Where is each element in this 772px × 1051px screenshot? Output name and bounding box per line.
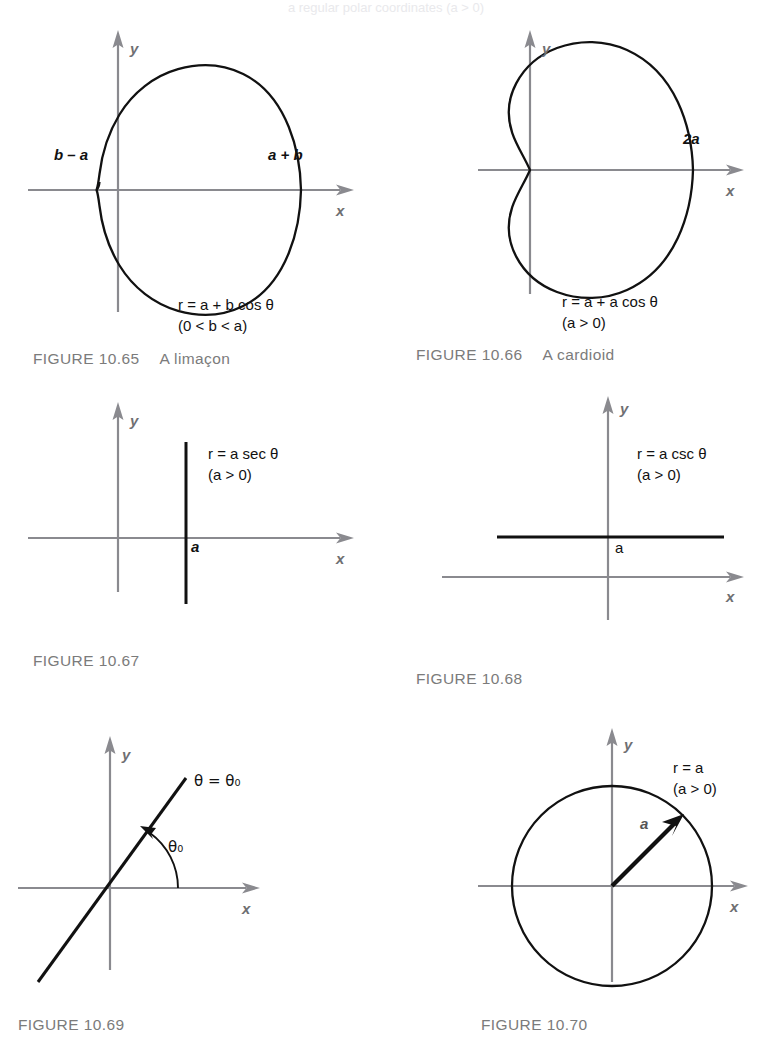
equation-line-2: (a > 0)	[637, 465, 707, 486]
angle-arc-label: θ₀	[168, 838, 183, 856]
figure-10-65-caption: FIGURE 10.65A limaçon	[33, 350, 230, 368]
y-axis-label: y	[122, 746, 130, 763]
figure-10-68-equation: r = a csc θ (a > 0)	[637, 444, 707, 485]
x-axis-label: x	[730, 898, 738, 915]
equation-line-1: r = a + a cos θ	[562, 292, 658, 313]
figure-10-67: y x a	[18, 392, 388, 612]
caption-number: FIGURE 10.67	[33, 652, 139, 669]
equation-line-1: r = a	[673, 758, 717, 779]
radius-vector-label: a	[640, 815, 648, 832]
equation-line-1: r = a sec θ	[208, 444, 278, 465]
x-axis-label: x	[336, 202, 344, 219]
equation-line-1: r = a csc θ	[637, 444, 707, 465]
figure-10-68: y x a	[400, 392, 770, 632]
figure-10-66-equation: r = a + a cos θ (a > 0)	[562, 292, 658, 333]
figure-page: a regular polar coordinates (a > 0) y x …	[0, 0, 772, 1051]
caption-number: FIGURE 10.68	[416, 670, 522, 687]
theta-line	[38, 778, 186, 982]
caption-number: FIGURE 10.69	[18, 1016, 124, 1033]
y-axis-label: y	[620, 400, 628, 417]
x-axis-label: x	[242, 900, 250, 917]
figure-10-66: y x 2a	[400, 22, 770, 322]
y-axis-label: y	[542, 40, 550, 57]
y-axis-label: y	[130, 412, 138, 429]
equation-line-2: (0 < b < a)	[178, 316, 274, 337]
line-equation-label: θ = θ₀	[194, 772, 240, 790]
figure-10-70-caption: FIGURE 10.70	[481, 1016, 587, 1034]
right-intercept-label: a + b	[268, 146, 303, 163]
figure-10-69-graphic	[18, 700, 388, 1000]
x-axis-label: x	[726, 588, 734, 605]
y-axis-label: y	[130, 40, 138, 57]
y-intercept-label: a	[615, 539, 623, 556]
figure-10-68-caption: FIGURE 10.68	[416, 670, 522, 688]
figure-10-67-equation: r = a sec θ (a > 0)	[208, 444, 278, 485]
caption-number: FIGURE 10.66	[416, 346, 522, 363]
caption-description: A cardioid	[542, 346, 614, 363]
figure-10-66-graphic	[400, 22, 770, 322]
right-intercept-label: 2a	[683, 130, 700, 147]
top-bleed-text: a regular polar coordinates (a > 0)	[0, 0, 772, 16]
caption-number: FIGURE 10.70	[481, 1016, 587, 1033]
radius-vector	[612, 824, 674, 886]
figure-10-66-caption: FIGURE 10.66A cardioid	[416, 346, 615, 364]
equation-line-1: r = a + b cos θ	[178, 295, 274, 316]
y-axis-label: y	[624, 736, 632, 753]
figure-10-70-graphic	[400, 700, 770, 1000]
equation-line-2: (a > 0)	[562, 313, 658, 334]
figure-10-65-equation: r = a + b cos θ (0 < b < a)	[178, 295, 274, 336]
figure-10-67-graphic	[18, 392, 388, 612]
caption-number: FIGURE 10.65	[33, 350, 139, 367]
equation-line-2: (a > 0)	[208, 465, 278, 486]
x-intercept-label: a	[191, 538, 199, 555]
figure-10-68-graphic	[400, 392, 770, 632]
equation-line-2: (a > 0)	[673, 779, 717, 800]
figure-10-70: y x a r = a (a > 0)	[400, 700, 770, 1000]
caption-description: A limaçon	[159, 350, 230, 367]
figure-10-69-caption: FIGURE 10.69	[18, 1016, 124, 1034]
x-axis-label: x	[726, 182, 734, 199]
figure-10-69: y x θ = θ₀ θ₀	[18, 700, 388, 1000]
x-axis-label: x	[336, 550, 344, 567]
left-intercept-label: b – a	[54, 146, 88, 163]
figure-10-70-equation: r = a (a > 0)	[673, 758, 717, 799]
figure-10-67-caption: FIGURE 10.67	[33, 652, 139, 670]
